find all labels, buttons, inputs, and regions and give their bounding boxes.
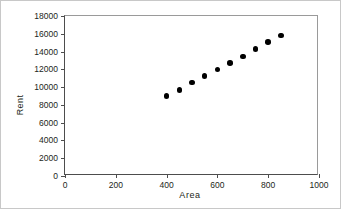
y-axis-tick [61, 52, 65, 53]
y-axis-tick [61, 69, 65, 70]
x-axis-tick-label: 200 [109, 181, 123, 190]
data-point [177, 87, 183, 93]
y-axis-tick-label: 16000 [34, 30, 58, 39]
y-axis-tick [61, 140, 65, 141]
y-axis-tick-label: 4000 [39, 136, 58, 145]
data-point [265, 39, 271, 45]
data-point [227, 60, 233, 66]
plot-area: 0200040006000800010000120001400016000180… [64, 15, 318, 175]
y-axis-tick [61, 16, 65, 17]
y-axis-tick [61, 123, 65, 124]
x-axis-tick [167, 174, 168, 178]
y-axis-tick-label: 2000 [39, 154, 58, 163]
y-axis-tick-label: 10000 [34, 83, 58, 92]
y-axis-tick [61, 158, 65, 159]
y-axis-title: Rent [16, 94, 25, 115]
x-axis-tick-label: 400 [160, 181, 174, 190]
scatter-chart-figure: 0200040006000800010000120001400016000180… [0, 0, 341, 209]
data-point [215, 67, 221, 73]
x-axis-tick-label: 0 [63, 181, 68, 190]
x-axis-tick-label: 600 [210, 181, 224, 190]
y-axis-tick [61, 34, 65, 35]
y-axis-tick-label: 8000 [39, 101, 58, 110]
x-axis-tick [217, 174, 218, 178]
data-point [278, 33, 284, 39]
x-axis-tick [268, 174, 269, 178]
x-axis-tick [65, 174, 66, 178]
x-axis-tick [319, 174, 320, 178]
y-axis-tick-label: 14000 [34, 47, 58, 56]
x-axis-tick [116, 174, 117, 178]
x-axis-title: Area [64, 191, 316, 200]
x-axis-tick-label: 800 [261, 181, 275, 190]
data-point [202, 73, 208, 79]
x-axis-tick-label: 1000 [310, 181, 329, 190]
data-point [189, 80, 195, 86]
y-axis-tick-label: 0 [53, 172, 58, 181]
y-axis-tick-label: 6000 [39, 118, 58, 127]
y-axis-tick [61, 105, 65, 106]
y-axis-tick-label: 12000 [34, 65, 58, 74]
data-point [240, 54, 246, 60]
data-point [253, 46, 259, 52]
y-axis-tick-label: 18000 [34, 12, 58, 21]
y-axis-tick [61, 87, 65, 88]
data-point [164, 93, 170, 99]
